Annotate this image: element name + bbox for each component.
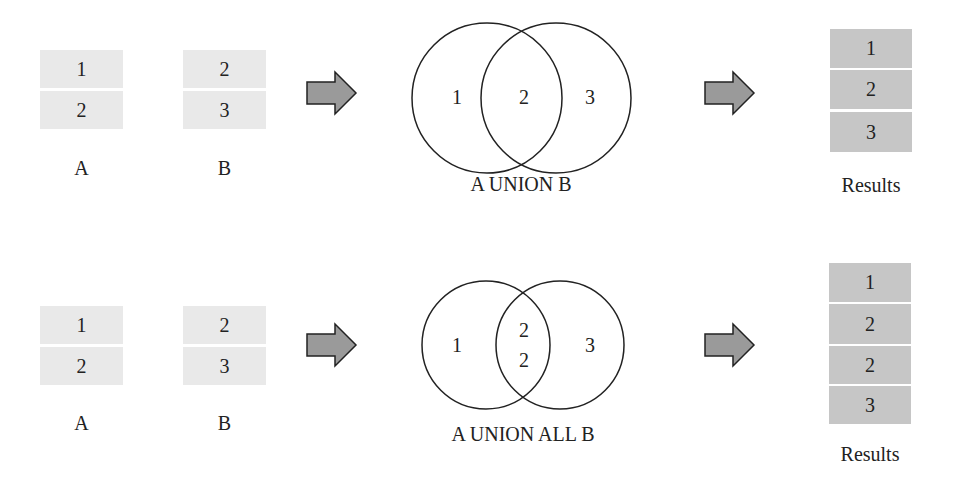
results-cell: 2 (829, 346, 911, 384)
venn-middle-value: 2 (519, 319, 529, 341)
results-cell: 3 (829, 386, 911, 424)
venn-circle-b (496, 281, 624, 409)
results-cell: 1 (829, 263, 911, 302)
venn-diagram-union-all: 1 2 2 3 (0, 0, 958, 483)
results-label: Results (829, 443, 911, 466)
arrow-right-icon (704, 323, 756, 367)
venn-circle-a (422, 281, 550, 409)
results-cell: 2 (829, 304, 911, 344)
venn-middle-value: 2 (519, 349, 529, 371)
venn-caption: A UNION ALL B (413, 423, 633, 446)
venn-right-value: 3 (585, 334, 595, 356)
venn-left-value: 1 (452, 334, 462, 356)
